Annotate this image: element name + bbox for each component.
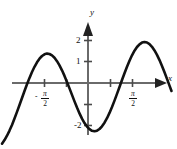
y-tick-label-2: 2 <box>76 36 81 45</box>
y-tick-label-1: 1 <box>76 57 81 66</box>
function-curve <box>2 42 172 144</box>
pi-numerator: π <box>124 90 142 98</box>
graph-canvas <box>0 0 177 149</box>
x-axis-label: x <box>168 74 172 83</box>
minus-sign: - <box>35 93 38 101</box>
y-axis-label: y <box>90 8 94 17</box>
denominator: 2 <box>36 100 54 108</box>
x-tick-label-pi-over-2: π 2 <box>124 90 142 108</box>
pi-numerator: π <box>36 90 54 98</box>
y-axis <box>83 22 93 135</box>
math-graph-figure: y x 2 1 -2 - π 2 π 2 <box>0 0 177 149</box>
denominator: 2 <box>124 100 142 108</box>
x-axis <box>12 78 167 88</box>
x-tick-label-neg-pi-over-2: - π 2 <box>36 90 54 108</box>
y-tick-label-neg2: -2 <box>74 121 82 130</box>
